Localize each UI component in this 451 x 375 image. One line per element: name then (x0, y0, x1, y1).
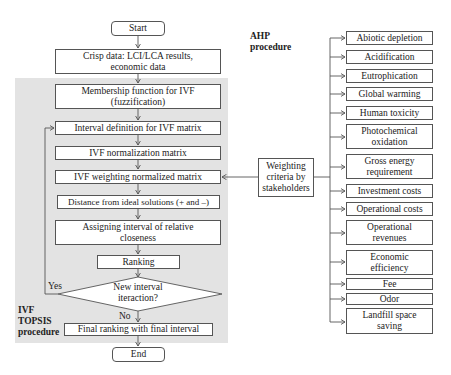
crisp-data-line1: Crisp data: LCI/LCA results, (83, 51, 193, 62)
criterion-global-warming: Global warming (346, 87, 433, 101)
weighting-criteria-line1: Weighting (266, 161, 305, 172)
weighting-criteria-line2: criteria by (267, 172, 306, 183)
interval-definition-box: Interval definition for IVF matrix (55, 121, 221, 135)
criterion-operational-revenues: Operational revenues (346, 220, 433, 245)
criterion-label: Investment costs (358, 186, 422, 197)
yes-label: Yes (48, 281, 62, 291)
ahp-label: AHP procedure (250, 31, 291, 53)
membership-line2: (fuzzification) (111, 97, 165, 108)
ivf-topsis-label-line2: TOPSIS (18, 316, 59, 327)
distance-ideal-box: Distance from ideal solutions (+ and –) (57, 195, 220, 209)
decision-text: New interval iteraction? (98, 282, 178, 304)
interval-definition-label: Interval definition for IVF matrix (74, 123, 201, 134)
ahp-label-line2: procedure (250, 42, 291, 53)
criterion-label: Eutrophication (361, 71, 417, 82)
end-label: End (131, 349, 146, 360)
criterion-operational-costs: Operational costs (346, 202, 433, 216)
criterion-label-line2: revenues (373, 233, 407, 244)
membership-function-box: Membership function for IVF (fuzzificati… (55, 84, 221, 109)
criterion-label-line1: Economic (370, 252, 409, 263)
criterion-label-line1: Operational (367, 222, 412, 233)
criterion-odor: Odor (346, 293, 433, 305)
normalization-label: IVF normalization matrix (89, 148, 187, 159)
criterion-eutrophication: Eutrophication (346, 69, 433, 83)
criterion-label-line2: efficiency (371, 263, 409, 274)
criterion-label-line1: Photochemical (361, 126, 417, 137)
criterion-human-toxicity: Human toxicity (346, 106, 433, 120)
criterion-label: Fee (383, 279, 397, 290)
ranking-box: Ranking (97, 255, 180, 269)
criterion-label: Human toxicity (360, 108, 419, 119)
crisp-data-box: Crisp data: LCI/LCA results, economic da… (55, 49, 221, 74)
criterion-gross-energy-requirement: Gross energy requirement (346, 154, 433, 179)
criterion-fee: Fee (346, 278, 433, 290)
criterion-landfill-space-saving: Landfill space saving (346, 308, 433, 334)
criterion-economic-efficiency: Economic efficiency (346, 250, 433, 275)
weighting-normalized-label: IVF weighting normalized matrix (74, 172, 202, 183)
criterion-label-line2: requirement (367, 167, 413, 178)
weighting-normalized-matrix-box: IVF weighting normalized matrix (55, 170, 221, 184)
weighting-criteria-box: Weighting criteria by stakeholders (258, 158, 314, 197)
criterion-label: Odor (380, 294, 400, 305)
decision-line2: iteraction? (98, 293, 178, 304)
ahp-label-line1: AHP (250, 31, 291, 42)
assigning-line1: Assigning interval of relative (82, 222, 193, 233)
final-ranking-box: Final ranking with final interval (64, 323, 213, 336)
criterion-label-line1: Landfill space (362, 310, 416, 321)
distance-label: Distance from ideal solutions (+ and –) (68, 197, 209, 208)
criterion-investment-costs: Investment costs (346, 184, 433, 198)
criterion-label: Operational costs (356, 204, 422, 215)
crisp-data-line2: economic data (110, 62, 165, 73)
criterion-label: Abiotic depletion (356, 33, 422, 44)
end-terminal: End (112, 347, 165, 362)
criterion-abiotic-depletion: Abiotic depletion (346, 31, 433, 45)
no-label: No (119, 311, 131, 321)
final-ranking-label: Final ranking with final interval (78, 324, 199, 335)
ivf-topsis-label-line1: IVF (18, 305, 59, 316)
criterion-photochemical-oxidation: Photochemical oxidation (346, 124, 433, 149)
weighting-criteria-line3: stakeholders (262, 183, 310, 194)
ranking-label: Ranking (122, 257, 154, 268)
ivf-topsis-label: IVF TOPSIS procedure (18, 305, 59, 338)
membership-line1: Membership function for IVF (81, 86, 194, 97)
start-terminal: Start (111, 21, 165, 36)
criterion-label: Global warming (358, 89, 420, 100)
decision-line1: New interval (98, 282, 178, 293)
start-label: Start (129, 23, 147, 34)
criterion-label: Acidification (364, 52, 414, 63)
criterion-acidification: Acidification (346, 50, 433, 64)
criterion-label-line2: oxidation (372, 137, 408, 148)
ivf-topsis-label-line3: procedure (18, 327, 59, 338)
assigning-line2: closeness (120, 233, 156, 244)
criterion-label-line2: saving (377, 321, 402, 332)
assigning-interval-box: Assigning interval of relative closeness (55, 220, 221, 245)
criterion-label-line1: Gross energy (364, 156, 414, 167)
normalization-matrix-box: IVF normalization matrix (55, 146, 221, 160)
